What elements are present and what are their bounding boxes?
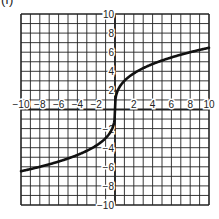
y-tick-label: −8 [103, 181, 115, 192]
x-tick-label: 2 [131, 99, 137, 110]
x-tick-label: −6 [53, 99, 65, 110]
x-tick-label: −8 [34, 99, 46, 110]
x-tick-label: 10 [203, 99, 215, 110]
y-tick-label: 8 [108, 28, 114, 39]
y-tick-label: −4 [103, 143, 115, 154]
chart: −10−8−6−4−2246810 108642−2−4−6−8−10 [0, 0, 219, 219]
x-tick-label: 8 [187, 99, 193, 110]
x-tick-label: −10 [13, 99, 30, 110]
y-tick-label: 10 [103, 9, 115, 20]
x-tick-label: 4 [150, 99, 156, 110]
y-tick-label: −10 [97, 200, 114, 211]
x-tick-label: −4 [72, 99, 84, 110]
y-tick-label: 2 [108, 85, 114, 96]
y-tick-label: 6 [108, 47, 114, 58]
x-tick-label: −2 [90, 99, 102, 110]
x-tick-label: 6 [169, 99, 175, 110]
y-tick-label: −6 [103, 162, 115, 173]
y-tick-label: 4 [108, 66, 114, 77]
